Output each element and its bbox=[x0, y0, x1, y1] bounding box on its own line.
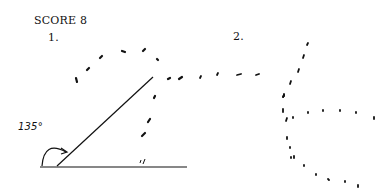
dash-mark bbox=[237, 74, 241, 75]
figure-1-angle bbox=[40, 77, 187, 167]
dash-mark bbox=[328, 179, 329, 180]
dash-mark bbox=[100, 56, 102, 58]
dash-mark bbox=[307, 43, 308, 45]
dash-mark bbox=[142, 133, 145, 136]
dash-mark bbox=[154, 96, 155, 98]
dash-mark bbox=[303, 55, 304, 58]
dash-mark bbox=[290, 81, 291, 84]
tick-mark bbox=[140, 159, 145, 164]
dash-mark bbox=[122, 51, 125, 52]
dash-mark bbox=[200, 76, 201, 78]
figure-1-dashed-path bbox=[76, 49, 182, 136]
dash-mark bbox=[286, 118, 287, 121]
angle-ray bbox=[57, 77, 153, 166]
dash-mark bbox=[148, 119, 150, 122]
drawing-canvas bbox=[0, 0, 390, 195]
dash-mark bbox=[256, 74, 259, 75]
dash-mark bbox=[217, 73, 218, 75]
dash-mark bbox=[76, 78, 77, 82]
dash-mark bbox=[179, 77, 182, 79]
dash-mark bbox=[168, 78, 170, 79]
dash-mark bbox=[143, 49, 145, 51]
figure-2-dashed-path bbox=[200, 43, 374, 187]
dash-mark bbox=[157, 59, 158, 60]
angle-arc-arrow bbox=[42, 148, 66, 166]
dash-mark bbox=[87, 68, 89, 70]
dash-mark bbox=[298, 69, 299, 72]
